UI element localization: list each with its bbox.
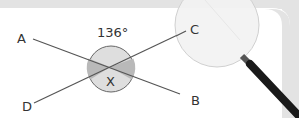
- angle-diagram: 136° X A D C B: [0, 0, 299, 118]
- point-label-a: A: [17, 31, 26, 46]
- angle-label: 136°: [97, 25, 128, 40]
- intersection-label: X: [106, 74, 115, 89]
- point-label-b: B: [191, 93, 200, 108]
- point-label-d: D: [22, 99, 32, 114]
- point-label-c: C: [190, 22, 199, 37]
